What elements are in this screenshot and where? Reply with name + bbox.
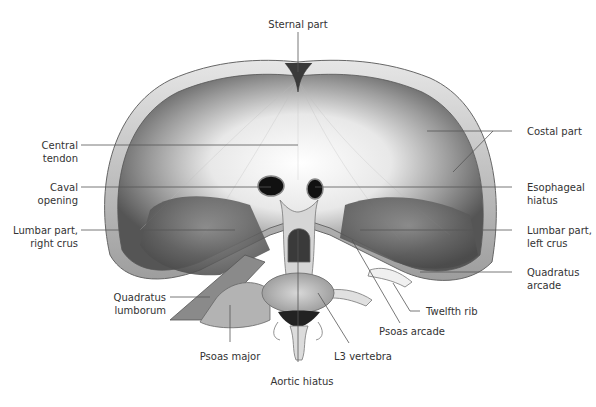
label-psoas-major: Psoas major bbox=[200, 350, 261, 363]
diaphragm-figure: Sternal part Central tendon Caval openin… bbox=[0, 0, 596, 407]
label-costal-part: Costal part bbox=[527, 125, 582, 138]
label-sternal-part: Sternal part bbox=[268, 18, 327, 31]
esophageal-hiatus-shape bbox=[307, 179, 323, 199]
label-esophageal-hiatus: Esophageal hiatus bbox=[527, 181, 585, 207]
label-central-tendon: Central tendon bbox=[42, 139, 78, 165]
diaphragm-illustration bbox=[0, 0, 596, 407]
spinous-process bbox=[290, 326, 308, 360]
label-psoas-arcade: Psoas arcade bbox=[379, 325, 445, 338]
aortic-hiatus-shape bbox=[288, 229, 310, 262]
label-lumbar-left-crus: Lumbar part, left crus bbox=[527, 224, 592, 250]
label-quadratus-lumborum: Quadratus lumborum bbox=[114, 291, 166, 317]
label-quadratus-arcade: Quadratus arcade bbox=[527, 266, 579, 292]
caval-opening-shape bbox=[258, 176, 284, 196]
label-lumbar-right-crus: Lumbar part, right crus bbox=[13, 224, 78, 250]
label-aortic-hiatus: Aortic hiatus bbox=[271, 375, 334, 388]
label-l3-vertebra: L3 vertebra bbox=[334, 350, 392, 363]
label-twelfth-rib: Twelfth rib bbox=[426, 305, 478, 318]
label-caval-opening: Caval opening bbox=[38, 181, 78, 207]
